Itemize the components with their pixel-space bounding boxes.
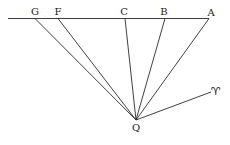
label-F: F (55, 6, 62, 17)
label-B: B (160, 6, 167, 17)
line-QA (136, 19, 209, 121)
line-QB (136, 19, 165, 121)
label-G: G (31, 6, 39, 17)
aries-icon: ♈ (211, 85, 221, 98)
label-Q: Q (132, 122, 140, 133)
geometric-diagram: G F C B A Q ♈ (0, 0, 230, 145)
line-Q-aries (136, 92, 211, 120)
line-QF (58, 19, 136, 121)
label-A: A (206, 7, 215, 18)
label-C: C (120, 6, 128, 17)
line-QG (35, 19, 136, 121)
line-QC (125, 19, 136, 121)
